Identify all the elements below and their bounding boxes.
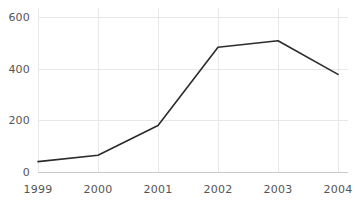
- x-axis-tick-label: 2001: [144, 184, 173, 195]
- line-chart: 6004002000 199920002001200220032004: [0, 0, 355, 208]
- data-series-line: [38, 41, 338, 162]
- x-axis-tick-label: 2004: [324, 184, 353, 195]
- y-axis-tick-label: 400: [0, 63, 30, 74]
- x-axis-tick-label: 2000: [84, 184, 113, 195]
- gridlines-horizontal: [38, 18, 348, 121]
- gridlines-vertical: [39, 8, 339, 172]
- y-axis-tick-label: 0: [0, 167, 30, 178]
- y-axis-tick-label: 600: [0, 12, 30, 23]
- x-axis-tick-label: 2003: [264, 184, 293, 195]
- x-axis-tick-label: 2002: [204, 184, 233, 195]
- chart-plot-area: [0, 0, 355, 208]
- y-axis-tick-label: 200: [0, 115, 30, 126]
- x-axis-tick-label: 1999: [24, 184, 53, 195]
